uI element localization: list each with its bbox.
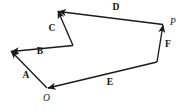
- vector-line-F: [157, 25, 163, 62]
- vector-line-group: [11, 11, 163, 88]
- point-label-P: P: [170, 18, 176, 28]
- vector-diagram-canvas: [0, 0, 187, 111]
- vector-line-D: [59, 12, 164, 25]
- vector-label-C: C: [49, 24, 56, 34]
- vector-line-C: [58, 11, 73, 46]
- vector-label-F: F: [165, 40, 171, 50]
- vector-label-A: A: [23, 71, 30, 81]
- vector-label-B: B: [37, 47, 43, 57]
- vector-diagram-figure: A B C D E F O P: [0, 0, 187, 111]
- vector-label-E: E: [107, 78, 113, 88]
- point-label-O: O: [43, 94, 50, 104]
- vector-label-D: D: [113, 3, 120, 13]
- vector-line-E: [48, 62, 157, 88]
